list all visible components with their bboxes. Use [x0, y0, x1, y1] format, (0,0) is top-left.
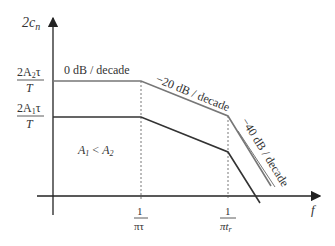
y-axis-label: 2cn [22, 15, 40, 32]
svg-text:πτ: πτ [134, 220, 145, 232]
svg-text:2A1τ: 2A1τ [17, 101, 41, 116]
x-tick-2: 1 πtr [220, 205, 236, 234]
svg-text:T: T [26, 81, 34, 95]
upper-envelope [53, 81, 271, 186]
y-tick-upper: 2A2τ T [17, 65, 44, 95]
svg-text:1: 1 [137, 205, 143, 217]
condition-label: A1 < A2 [77, 143, 113, 158]
svg-text:2A2τ: 2A2τ [17, 65, 41, 80]
x-axis-label: f [311, 202, 317, 217]
spectrum-envelope-diagram: 2cn 2A2τ T 2A1τ T 1 πτ 1 πtr f 0 dB / de… [0, 0, 335, 246]
x-tick-1: 1 πτ [134, 205, 148, 232]
svg-text:πtr: πtr [220, 220, 233, 234]
y-tick-lower: 2A1τ T [17, 101, 44, 131]
lower-envelope [53, 117, 260, 203]
svg-text:T: T [26, 117, 34, 131]
slope-label-flat: 0 dB / decade [64, 63, 130, 77]
slope-label-mid: −20 dB / decade [154, 72, 232, 114]
svg-text:1: 1 [225, 205, 231, 217]
